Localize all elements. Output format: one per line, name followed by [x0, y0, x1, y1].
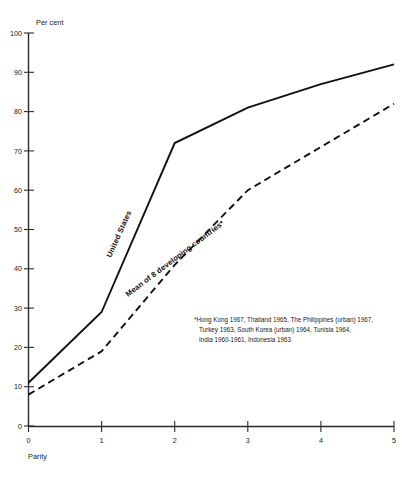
series-label-developing-countries: Mean of 8 developing countries*	[124, 219, 226, 299]
x-axis-tick-labels: 0 1 2 3 4 5	[27, 436, 397, 445]
x-axis-title: Parity	[28, 452, 47, 461]
footnote-line-3: India 1960-1961, Indonesia 1963	[199, 336, 292, 343]
svg-text:80: 80	[14, 107, 22, 116]
svg-text:4: 4	[319, 436, 323, 445]
svg-text:0: 0	[27, 436, 31, 445]
svg-text:30: 30	[14, 304, 22, 313]
chart-svg: Per cent 100 90 80 70 60 50 40 3	[0, 0, 414, 477]
svg-text:0: 0	[18, 422, 22, 431]
svg-text:60: 60	[14, 186, 22, 195]
footnote-line-2: Turkey 1963, South Korea (urban) 1964, T…	[199, 326, 351, 334]
svg-text:3: 3	[246, 436, 250, 445]
svg-text:1: 1	[100, 436, 104, 445]
svg-text:5: 5	[392, 436, 396, 445]
svg-text:2: 2	[173, 436, 177, 445]
series-line-developing-countries	[29, 104, 395, 395]
svg-text:20: 20	[14, 343, 22, 352]
svg-text:100: 100	[10, 29, 22, 38]
svg-text:40: 40	[14, 264, 22, 273]
svg-text:90: 90	[14, 68, 22, 77]
footnote: *Hong Kong 1967, Thailand 1965, The Phil…	[194, 316, 373, 343]
series-label-united-states: United States	[105, 209, 134, 259]
y-axis-tick-labels: 100 90 80 70 60 50 40 30 20 10 0	[10, 29, 22, 431]
footnote-line-1: *Hong Kong 1967, Thailand 1965, The Phil…	[194, 316, 373, 324]
chart-figure: Per cent 100 90 80 70 60 50 40 3	[0, 0, 414, 477]
svg-text:10: 10	[14, 382, 22, 391]
y-axis-title: Per cent	[36, 18, 64, 27]
svg-text:50: 50	[14, 225, 22, 234]
svg-text:70: 70	[14, 147, 22, 156]
